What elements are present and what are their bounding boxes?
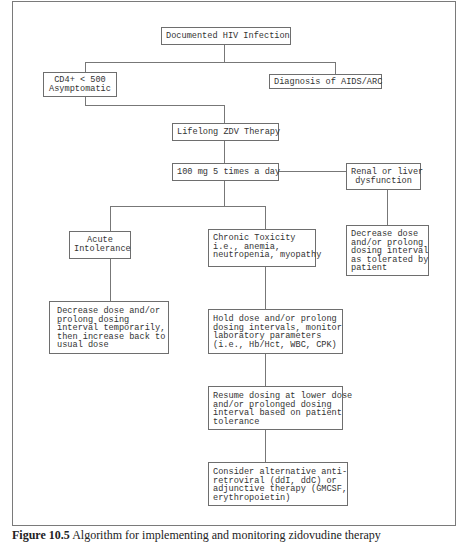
connector-n4-n5 (224, 141, 225, 163)
connector-n9-n11 (265, 267, 266, 309)
node-dose-100mg: 100 mg 5 times a day (172, 163, 279, 181)
figure-number: Figure 10.5 (12, 528, 70, 542)
connector-n1-down (224, 45, 225, 62)
connector-bracket-top (85, 62, 336, 63)
node-consider-alternative: Consider alternative anti- retroviral (d… (208, 462, 348, 506)
figure-caption-text: Algorithm for implementing and monitorin… (72, 528, 381, 542)
connector-bracket-to-n4 (224, 105, 225, 123)
connector-n5-n6 (279, 171, 346, 172)
node-documented-hiv-infection: Documented HIV Infection (161, 27, 291, 45)
connector-n8-n10 (110, 259, 111, 301)
connector-n5-branch (224, 181, 225, 206)
node-acute-intolerance: Acute Intolerance (69, 231, 131, 259)
node-renal-liver-dysfunction: Renal or liver dysfunction (346, 163, 421, 190)
node-decrease-dose-renal: Decrease dose and/or prolong dosing inte… (346, 225, 429, 276)
node-decrease-dose-temporarily: Decrease dose and/or prolong dosing inte… (49, 301, 169, 354)
connector-n12-n13 (265, 430, 266, 462)
node-resume-dosing: Resume dosing at lower dose and/or prolo… (208, 386, 343, 430)
connector-bracket-bottom (85, 105, 225, 106)
connector-bracket-right (335, 62, 336, 74)
connector-branch-right (265, 206, 266, 229)
figure-caption: Figure 10.5 Algorithm for implementing a… (12, 528, 381, 542)
connector-branch-left (110, 206, 111, 231)
connector-n11-n12 (265, 354, 266, 386)
node-chronic-toxicity: Chronic Toxicity i.e., anemia, neutropen… (208, 229, 316, 267)
connector-n6-n7 (387, 190, 388, 225)
connector-branch-horizontal (110, 206, 266, 207)
node-lifelong-zdv-therapy: Lifelong ZDV Therapy (172, 123, 279, 141)
node-cd4-asymptomatic: CD4+ < 500 Asymptomatic (43, 72, 117, 97)
node-diagnosis-aids-arc: Diagnosis of AIDS/ARC (269, 74, 382, 89)
node-hold-dose-monitor: Hold dose and/or prolong dosing interval… (208, 309, 343, 354)
